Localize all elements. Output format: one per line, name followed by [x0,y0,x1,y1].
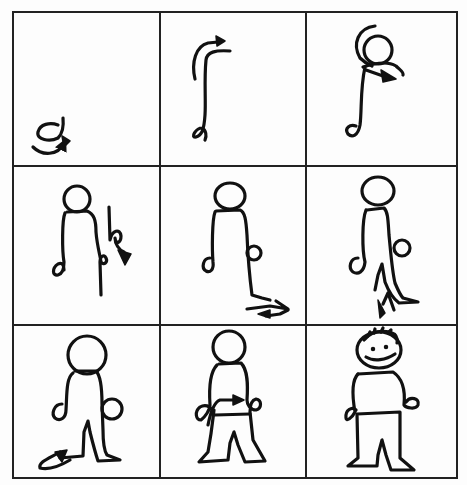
panel-step-2 [194,36,230,140]
panel-step-4 [54,186,132,295]
drawing-tutorial-sheet: How to draw a stick figure in 9 steps [0,0,467,485]
tutorial-grid-canvas [0,0,467,485]
panel-step-5 [203,183,288,318]
panel-step-8 [196,331,265,462]
panel-step-6 [350,177,418,318]
panel-step-1 [33,118,70,153]
panel-step-9 [346,328,418,470]
panel-step-3 [347,26,403,136]
panel-step-7 [40,336,122,469]
